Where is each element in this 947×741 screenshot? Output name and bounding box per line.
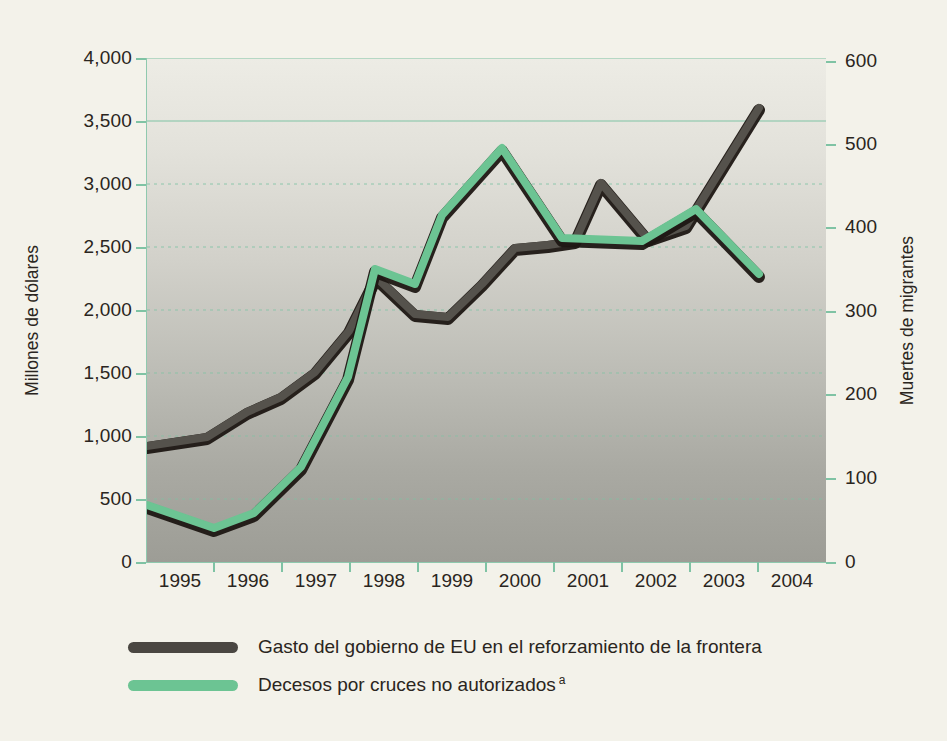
x-label-1998: 1998 [363,570,405,592]
legend-swatch-green [128,680,238,691]
left-axis-title: Millones de dólares [22,221,43,421]
right-tick-400: 400 [845,216,877,238]
x-label-1996: 1996 [227,570,269,592]
x-label-2001: 2001 [567,570,609,592]
legend-label-decesos-text: Decesos por cruces no autorizados [258,675,556,696]
right-axis-title: Muertes de migrantes [897,221,918,421]
legend-item-gasto: Gasto del gobierno de EU en el reforzami… [128,628,762,666]
left-tick-3500: 3,500 [83,110,132,132]
x-label-1999: 1999 [431,570,473,592]
right-tick-300: 300 [845,300,877,322]
x-label-2003: 2003 [703,570,745,592]
series-gasto-gobierno [147,108,759,448]
left-tick-3000: 3,000 [83,173,132,195]
legend-label-gasto: Gasto del gobierno de EU en el reforzami… [258,636,762,658]
left-tick-2000: 2,000 [83,299,132,321]
chart-figure: 4,000 3,500 3,000 2,500 2,000 1,500 1,00… [0,0,947,741]
left-tick-0: 0 [121,551,132,573]
x-label-1997: 1997 [295,570,337,592]
series-decesos-cruces [147,148,759,531]
x-label-2000: 2000 [499,570,541,592]
left-tick-4000: 4,000 [83,47,132,69]
left-axis-ticks: 4,000 3,500 3,000 2,500 2,000 1,500 1,00… [64,0,132,741]
chart-legend: Gasto del gobierno de EU en el reforzami… [128,628,762,704]
x-label-2004: 2004 [771,570,813,592]
legend-item-decesos: Decesos por cruces no autorizadosa [128,666,762,704]
left-tick-500: 500 [100,488,132,510]
right-tick-100: 100 [845,467,877,489]
left-tick-1500: 1,500 [83,362,132,384]
right-tick-500: 500 [845,133,877,155]
left-tick-2500: 2,500 [83,236,132,258]
left-tick-1000: 1,000 [83,425,132,447]
chart-canvas [147,58,826,562]
legend-label-decesos: Decesos por cruces no autorizadosa [258,673,566,696]
right-tick-600: 600 [845,50,877,72]
legend-swatch-dark [128,642,238,653]
plot-area [146,58,826,563]
legend-footnote-marker: a [559,673,566,687]
right-tick-200: 200 [845,383,877,405]
right-tick-0: 0 [845,551,856,573]
x-label-1995: 1995 [159,570,201,592]
x-label-2002: 2002 [635,570,677,592]
